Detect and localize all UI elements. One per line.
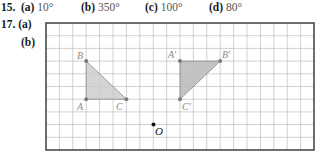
- label-a: A: [76, 101, 84, 112]
- rotation-figure: B A C A′ B′ C′ O: [0, 0, 317, 156]
- label-a-prime: A′: [167, 49, 177, 60]
- point-a-prime: [178, 59, 182, 63]
- label-b-prime: B′: [222, 49, 231, 60]
- point-c: [124, 97, 128, 101]
- label-b: B: [77, 50, 83, 61]
- triangle-abc-prime: A′ B′ C′: [167, 49, 231, 112]
- point-a: [84, 97, 88, 101]
- label-c: C: [116, 101, 123, 112]
- point-b: [84, 59, 88, 63]
- label-o: O: [155, 125, 163, 137]
- label-c-prime: C′: [182, 101, 192, 112]
- triangle-abc: B A C: [76, 50, 128, 112]
